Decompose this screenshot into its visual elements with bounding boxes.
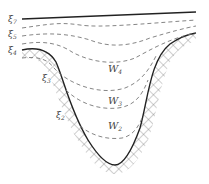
label-w2: W2 — [108, 120, 122, 132]
label-xi2: ξ2 — [56, 110, 65, 121]
surface-line-xi7 — [22, 12, 196, 19]
label-xi5: ξ5 — [8, 29, 17, 40]
layer-line-xi6 — [22, 20, 196, 28]
label-w3: W3 — [108, 95, 122, 107]
label-xi4: ξ4 — [8, 45, 17, 56]
label-xi7: ξ7 — [8, 14, 17, 25]
label-w4: W4 — [108, 63, 122, 75]
valley-diagram: ξ7 ξ5 ξ4 ξ3 ξ2 W4 W3 W2 — [0, 0, 209, 184]
layer-line-xi5 — [22, 26, 196, 45]
